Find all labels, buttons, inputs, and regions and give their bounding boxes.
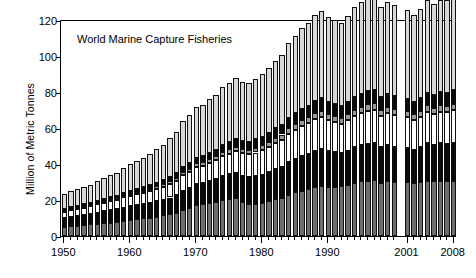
x-tick-minor xyxy=(77,237,78,240)
x-tick-minor xyxy=(360,237,361,240)
y-tick-label: 40 xyxy=(45,159,57,171)
bar-segment-region-2 xyxy=(385,145,390,181)
bar-segment-region-2 xyxy=(306,154,311,189)
bar-segment-region-3 xyxy=(246,154,251,177)
bar-1986 xyxy=(299,28,304,236)
bar-1992 xyxy=(339,23,344,236)
bar-segment-region-6 xyxy=(378,7,383,97)
bar-segment-region-1 xyxy=(385,181,390,236)
bar-segment-region-1 xyxy=(213,202,218,236)
bar-segment-region-4 xyxy=(194,163,199,166)
bar-2000 xyxy=(392,5,397,236)
x-tick-minor xyxy=(440,237,441,240)
bar-segment-region-6 xyxy=(299,28,304,109)
bar-segment-region-2 xyxy=(253,176,258,204)
bar-segment-region-1 xyxy=(312,187,317,236)
bar-1960 xyxy=(128,164,133,236)
bar-segment-region-5 xyxy=(451,90,456,103)
bar-1953 xyxy=(81,187,86,236)
bar-segment-region-5 xyxy=(88,203,93,205)
bar-1974 xyxy=(220,87,225,236)
bar-segment-region-4 xyxy=(312,113,317,119)
bar-segment-region-1 xyxy=(227,199,232,236)
bar-segment-region-4 xyxy=(240,149,245,153)
bar-segment-region-6 xyxy=(405,10,410,99)
bar-segment-region-2 xyxy=(319,149,324,186)
bar-segment-region-5 xyxy=(405,99,410,111)
bar-segment-region-4 xyxy=(128,194,133,196)
bar-segment-region-4 xyxy=(286,128,291,134)
bar-segment-region-1 xyxy=(174,213,179,236)
x-tick-major xyxy=(407,237,408,243)
bar-segment-region-2 xyxy=(141,204,146,218)
bar-1993 xyxy=(345,16,350,236)
bar-segment-region-5 xyxy=(161,180,166,184)
bar-segment-region-3 xyxy=(240,153,245,175)
bar-segment-region-3 xyxy=(167,184,172,198)
bar-segment-region-5 xyxy=(431,95,436,108)
bar-segment-region-1 xyxy=(438,181,443,236)
x-tick-minor xyxy=(426,237,427,240)
x-tick-minor xyxy=(156,237,157,240)
x-tick-minor xyxy=(334,237,335,240)
bar-1971 xyxy=(200,105,205,236)
bar-segment-region-1 xyxy=(88,224,93,236)
bar-segment-region-2 xyxy=(121,208,126,221)
bar-segment-region-4 xyxy=(141,191,146,193)
bar-segment-region-5 xyxy=(359,94,364,107)
bar-segment-region-1 xyxy=(246,204,251,236)
bar-segment-region-2 xyxy=(154,201,159,216)
bar-segment-region-6 xyxy=(75,189,80,206)
bar-1965 xyxy=(161,145,166,236)
bar-segment-region-1 xyxy=(273,199,278,236)
bar-segment-region-1 xyxy=(372,180,377,236)
x-tick-minor xyxy=(228,237,229,240)
bar-segment-region-3 xyxy=(121,197,126,207)
bar-segment-region-5 xyxy=(101,199,106,201)
bar-1958 xyxy=(114,173,119,236)
x-tick-minor xyxy=(308,237,309,240)
bar-segment-region-6 xyxy=(339,23,344,107)
bar-segment-region-4 xyxy=(352,110,357,116)
x-tick-minor xyxy=(288,237,289,240)
bar-segment-region-4 xyxy=(359,107,364,113)
bar-segment-region-5 xyxy=(425,93,430,106)
bar-segment-region-6 xyxy=(411,15,416,102)
bar-segment-region-4 xyxy=(273,138,278,143)
bar-segment-region-3 xyxy=(220,156,225,176)
bar-segment-region-6 xyxy=(121,168,126,192)
x-tick-minor xyxy=(281,237,282,240)
bar-segment-region-5 xyxy=(128,191,133,194)
bar-segment-region-2 xyxy=(273,169,278,199)
bar-1956 xyxy=(101,178,106,236)
bar-segment-region-3 xyxy=(286,134,291,162)
bar-segment-region-4 xyxy=(332,116,337,122)
bar-segment-region-3 xyxy=(260,150,265,174)
bar-segment-region-6 xyxy=(385,2,390,94)
bar-segment-region-5 xyxy=(194,158,199,164)
bar-1969 xyxy=(187,115,192,236)
bar-1998 xyxy=(378,7,383,236)
bar-segment-region-3 xyxy=(141,193,146,204)
bar-segment-region-4 xyxy=(200,162,205,165)
bar-segment-region-3 xyxy=(128,196,133,206)
bar-1963 xyxy=(147,154,152,236)
bar-segment-region-4 xyxy=(279,135,284,140)
y-tick-label: 80 xyxy=(45,87,57,99)
bar-segment-region-6 xyxy=(174,132,179,173)
bar-segment-region-4 xyxy=(180,172,185,175)
bar-segment-region-6 xyxy=(286,43,291,118)
bar-segment-region-4 xyxy=(246,150,251,155)
bar-segment-region-5 xyxy=(438,92,443,105)
bar-segment-region-1 xyxy=(121,221,126,236)
bar-segment-region-5 xyxy=(167,177,172,181)
bar-segment-region-4 xyxy=(187,169,192,172)
bar-segment-region-3 xyxy=(326,120,331,151)
bar-segment-region-1 xyxy=(194,205,199,236)
x-tick-major xyxy=(195,237,196,243)
bar-segment-region-3 xyxy=(253,153,258,177)
bar-segment-region-1 xyxy=(180,210,185,236)
bar-segment-region-1 xyxy=(332,187,337,236)
bar-segment-region-6 xyxy=(81,187,86,204)
bar-segment-region-6 xyxy=(88,185,93,203)
